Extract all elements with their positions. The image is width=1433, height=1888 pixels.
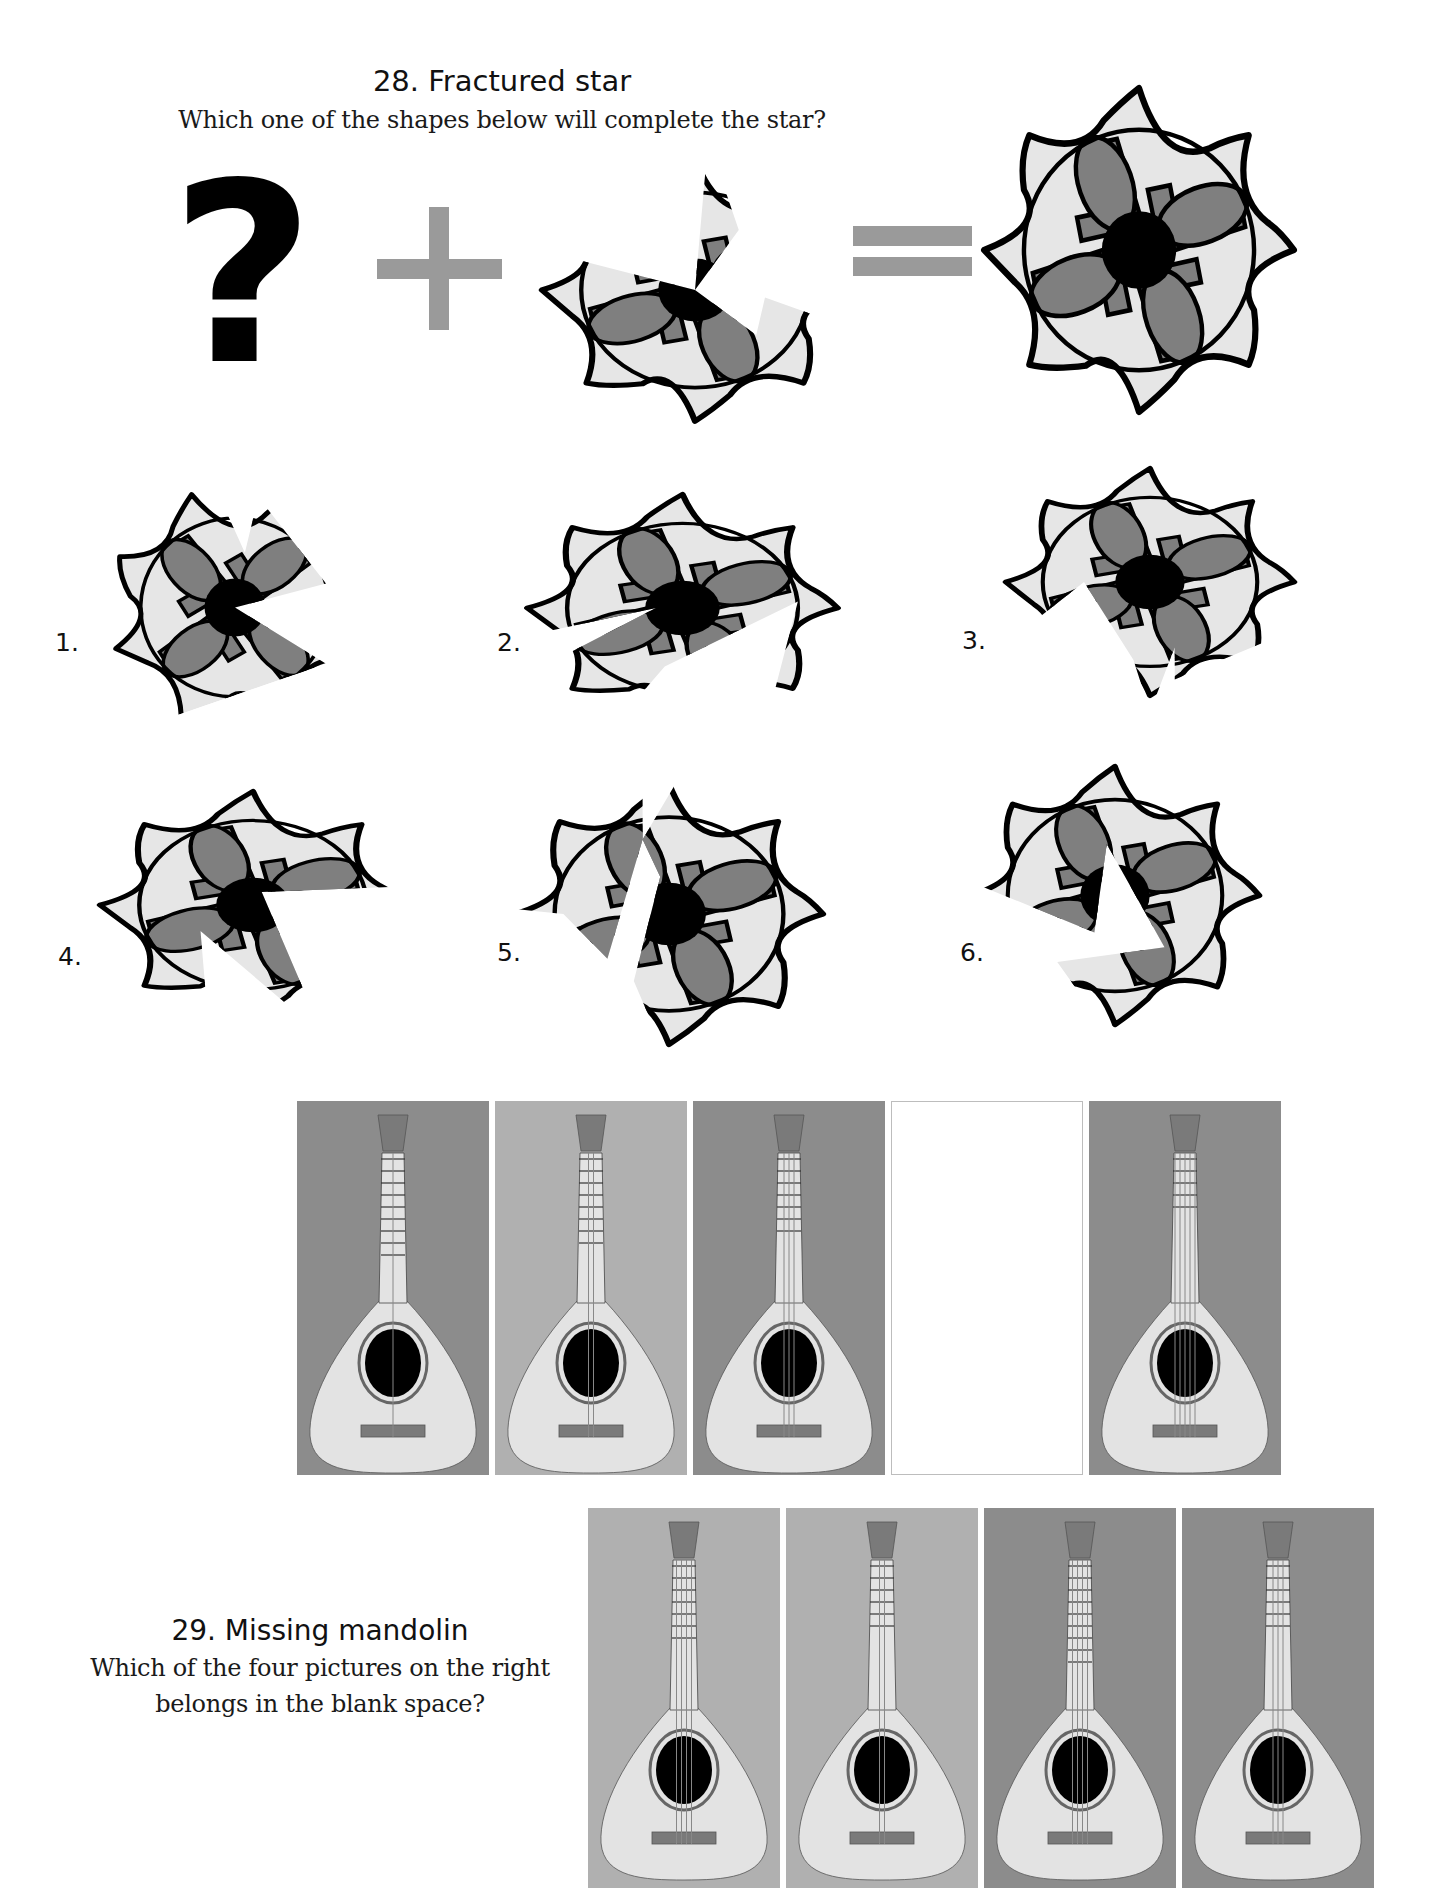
choice-mandolin-1[interactable]	[588, 1508, 780, 1888]
sequence-mandolin-1	[297, 1101, 489, 1475]
puzzle-29-question-line1: Which of the four pictures on the right	[90, 1654, 550, 1682]
sequence-mandolin-5	[1089, 1101, 1281, 1475]
puzzle-28-title: 28. Fractured star	[373, 64, 631, 98]
choice-mandolin-3[interactable]	[984, 1508, 1176, 1888]
complete-star	[962, 65, 1316, 435]
given-star-fragment	[520, 140, 870, 440]
sequence-mandolin-2	[495, 1101, 687, 1475]
option-3-shape[interactable]	[985, 452, 1315, 712]
option-4-shape[interactable]	[78, 775, 428, 1035]
option-5-shape[interactable]	[493, 765, 845, 1063]
choice-mandolin-2[interactable]	[786, 1508, 978, 1888]
option-3-label: 3.	[962, 626, 986, 655]
option-1-label: 1.	[55, 628, 79, 657]
puzzle-29-question-line2: belongs in the blank space?	[155, 1690, 485, 1718]
puzzle-29-title: 29. Missing mandolin	[171, 1614, 468, 1647]
option-2-shape[interactable]	[505, 478, 860, 738]
equals-icon	[853, 226, 972, 276]
plus-icon	[377, 207, 502, 330]
question-mark-icon: ?	[170, 150, 315, 400]
option-6-shape[interactable]	[950, 748, 1280, 1043]
choice-mandolin-4[interactable]	[1182, 1508, 1374, 1888]
option-1-shape[interactable]	[90, 470, 380, 745]
blank-space	[891, 1101, 1083, 1475]
sequence-mandolin-3	[693, 1101, 885, 1475]
